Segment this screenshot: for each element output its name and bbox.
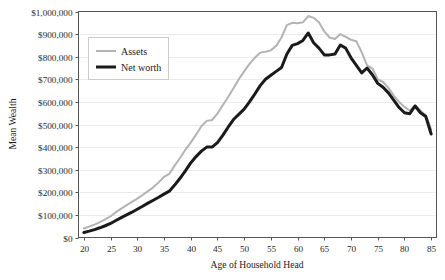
x-tick-label: 60 (294, 244, 304, 254)
legend-label-net-worth: Net worth (121, 62, 161, 73)
y-tick-label: $500,000 (38, 121, 73, 131)
x-tick-label: 35 (160, 244, 170, 254)
x-tick-label: 70 (347, 244, 357, 254)
y-tick-label: $900,000 (38, 30, 73, 40)
y-tick-label: $600,000 (38, 98, 73, 108)
y-tick-label: $800,000 (38, 53, 73, 63)
legend-box (89, 38, 169, 80)
y-tick-label: $100,000 (38, 211, 73, 221)
x-tick-label: 80 (400, 244, 410, 254)
x-axis-title: Age of Household Head (211, 259, 304, 270)
y-tick-label: $1,000,000 (31, 8, 73, 18)
x-tick-label: 75 (374, 244, 384, 254)
x-axis-tick-labels: 2025303540455055606570758085 (80, 244, 437, 254)
y-axis-title: Mean Wealth (7, 98, 18, 149)
x-tick-label: 45 (213, 244, 223, 254)
y-tick-label: $400,000 (38, 143, 73, 153)
y-tick-label: $300,000 (38, 166, 73, 176)
x-tick-label: 25 (107, 244, 117, 254)
y-tick-label: $700,000 (38, 75, 73, 85)
chart-svg: $0$100,000$200,000$300,000$400,000$500,0… (0, 0, 445, 280)
wealth-by-age-chart: $0$100,000$200,000$300,000$400,000$500,0… (0, 0, 445, 280)
y-tick-label: $200,000 (38, 188, 73, 198)
x-tick-label: 20 (80, 244, 90, 254)
x-tick-label: 30 (133, 244, 143, 254)
y-tick-label: $0 (63, 234, 73, 244)
legend: Assets Net worth (89, 38, 169, 80)
x-tick-label: 85 (427, 244, 437, 254)
y-axis-tick-labels: $0$100,000$200,000$300,000$400,000$500,0… (31, 8, 73, 244)
x-tick-label: 65 (320, 244, 330, 254)
legend-label-assets: Assets (121, 46, 147, 57)
x-tick-label: 55 (267, 244, 277, 254)
x-tick-label: 50 (240, 244, 250, 254)
x-tick-label: 40 (187, 244, 197, 254)
